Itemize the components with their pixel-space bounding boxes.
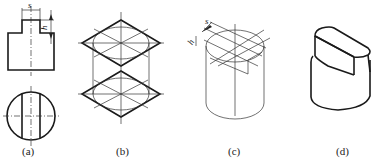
panel-d-drawing — [311, 27, 370, 110]
panel-c-label: (c) — [228, 145, 240, 157]
panel-a-label: (a) — [22, 145, 34, 157]
panel-d-label: (d) — [336, 145, 349, 157]
panel-b-drawing — [78, 12, 164, 124]
panel-b-label: (b) — [116, 145, 129, 157]
dim-h-label-a: h — [39, 25, 49, 30]
dim-s-label-a: s — [28, 0, 32, 10]
panel-c-drawing: s h — [185, 16, 270, 119]
dim-s-label-c: s — [205, 16, 209, 26]
technical-drawing: s h — [0, 0, 377, 166]
dim-h-label-c: h — [185, 37, 196, 46]
panel-a-drawing: s h — [3, 0, 59, 146]
